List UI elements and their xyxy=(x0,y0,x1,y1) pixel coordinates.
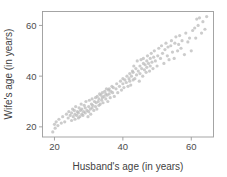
data-point xyxy=(148,69,151,72)
data-point xyxy=(200,31,203,34)
data-point xyxy=(183,53,186,56)
data-point xyxy=(190,49,193,52)
data-point xyxy=(146,54,149,57)
data-point xyxy=(167,58,170,61)
data-point xyxy=(109,96,112,99)
data-point xyxy=(197,24,200,27)
y-tick-label: 40 xyxy=(26,71,37,82)
data-point xyxy=(180,39,183,42)
data-point xyxy=(73,109,76,112)
data-point xyxy=(73,118,76,121)
data-point xyxy=(184,31,187,34)
data-point xyxy=(161,52,164,55)
data-point xyxy=(138,72,141,75)
data-point xyxy=(128,80,131,83)
data-point xyxy=(101,101,104,104)
data-point xyxy=(118,85,121,88)
data-point xyxy=(177,43,180,46)
data-point xyxy=(179,47,182,50)
data-point xyxy=(166,45,169,48)
data-point xyxy=(112,86,115,89)
data-point xyxy=(51,130,54,133)
data-point xyxy=(150,61,153,64)
x-tick-label: 60 xyxy=(186,141,197,152)
data-point xyxy=(115,82,118,85)
y-axis-label: Wife's age (in years) xyxy=(3,29,14,120)
data-point xyxy=(67,116,70,119)
data-point xyxy=(56,124,59,127)
data-point xyxy=(99,102,102,105)
data-point xyxy=(169,44,172,47)
data-point xyxy=(81,114,84,117)
data-point xyxy=(113,95,116,98)
data-point xyxy=(157,47,160,50)
data-point xyxy=(116,91,119,94)
data-point xyxy=(88,99,91,102)
data-point xyxy=(150,52,153,55)
data-point xyxy=(136,59,139,62)
x-tick-label: 20 xyxy=(49,141,60,152)
data-point xyxy=(89,113,92,116)
x-axis-label: Husband's age (in years) xyxy=(73,161,184,172)
data-point xyxy=(95,108,98,111)
data-point xyxy=(78,115,81,118)
data-point xyxy=(54,127,57,130)
data-point xyxy=(119,80,122,83)
data-point xyxy=(145,66,148,69)
data-point xyxy=(63,120,66,123)
data-point xyxy=(132,64,135,67)
data-point xyxy=(92,109,95,112)
data-point xyxy=(173,42,176,45)
data-point xyxy=(164,42,167,45)
y-tick-label: 20 xyxy=(26,121,37,132)
data-point xyxy=(86,115,89,118)
data-point xyxy=(145,71,148,74)
data-point xyxy=(67,110,70,113)
data-point xyxy=(70,111,73,114)
data-point xyxy=(178,34,181,37)
data-point xyxy=(195,18,198,21)
plot-canvas: 204060 204060 Husband's age (in years) W… xyxy=(0,0,227,177)
data-point xyxy=(114,87,117,90)
data-point xyxy=(159,57,162,60)
data-point xyxy=(126,85,129,88)
data-point xyxy=(120,89,123,92)
data-point xyxy=(129,83,132,86)
x-tick-label: 40 xyxy=(118,141,129,152)
data-point xyxy=(188,37,191,40)
data-point xyxy=(160,44,163,47)
data-point xyxy=(111,91,114,94)
scatter-plot-figure: 204060 204060 Husband's age (in years) W… xyxy=(0,0,227,177)
data-point xyxy=(203,28,206,31)
data-point xyxy=(55,120,58,123)
data-point xyxy=(162,62,165,65)
data-point xyxy=(155,64,158,67)
data-point xyxy=(156,54,159,57)
data-point xyxy=(125,75,128,78)
data-point xyxy=(132,71,135,74)
data-point xyxy=(130,75,133,78)
data-point xyxy=(106,100,109,103)
data-point xyxy=(173,57,176,60)
data-point xyxy=(97,97,100,100)
data-point xyxy=(61,115,64,118)
data-point xyxy=(193,26,196,29)
data-point xyxy=(138,80,141,83)
data-point xyxy=(80,102,83,105)
data-point xyxy=(191,29,194,32)
data-point xyxy=(135,73,138,76)
data-point xyxy=(170,39,173,42)
data-point xyxy=(134,67,137,70)
data-point xyxy=(163,48,166,51)
y-tick-label: 60 xyxy=(26,20,37,31)
data-point xyxy=(140,67,143,70)
data-point xyxy=(122,86,125,89)
data-point xyxy=(198,16,201,19)
data-point xyxy=(166,54,169,57)
data-point xyxy=(74,105,77,108)
data-point xyxy=(174,35,177,38)
data-point xyxy=(176,49,179,52)
data-point xyxy=(201,20,204,23)
data-point xyxy=(154,59,157,62)
data-point xyxy=(57,118,60,121)
